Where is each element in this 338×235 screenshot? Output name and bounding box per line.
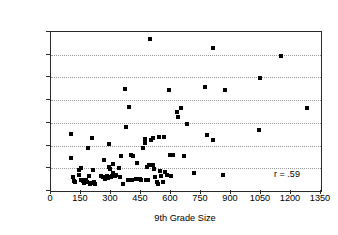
correlation-annotation: r = .59 [274, 169, 300, 179]
y-tick-mark [46, 122, 50, 123]
data-point [167, 88, 171, 92]
data-point [146, 178, 150, 182]
x-tick-mark [110, 190, 111, 194]
data-point [211, 46, 215, 50]
y-tick-mark [46, 145, 50, 146]
data-point [87, 174, 91, 178]
data-point [139, 178, 143, 182]
data-point [156, 182, 160, 186]
data-point [123, 87, 127, 91]
scatter-chart-figure: Mid-Size City 9th Grade Dropout Rate (%)… [0, 0, 338, 235]
data-point [158, 169, 162, 173]
data-point [131, 154, 135, 158]
data-point [223, 88, 227, 92]
data-point [176, 115, 180, 119]
data-point [161, 180, 165, 184]
data-point [93, 182, 97, 186]
data-point [305, 106, 309, 110]
x-tick-mark [230, 190, 231, 194]
data-point [169, 174, 173, 178]
x-tick-mark [290, 190, 291, 194]
x-tick-mark [200, 190, 201, 194]
y-tick-mark [46, 31, 50, 32]
data-point [182, 154, 186, 158]
data-point [143, 141, 147, 145]
x-tick-mark [260, 190, 261, 194]
y-tick-mark [46, 167, 50, 168]
y-tick-mark [46, 99, 50, 100]
data-point [107, 142, 111, 146]
data-point [152, 167, 156, 171]
data-point [258, 76, 262, 80]
data-point [117, 166, 121, 170]
data-point [175, 110, 179, 114]
data-point [124, 125, 128, 129]
data-point [111, 162, 115, 166]
x-tick-mark [80, 190, 81, 194]
data-point [257, 128, 261, 132]
x-tick-mark [140, 190, 141, 194]
data-point [121, 182, 125, 186]
x-tick-mark [170, 190, 171, 194]
data-point [102, 158, 106, 162]
plot-area: r = .59 [50, 31, 322, 192]
data-point [221, 173, 225, 177]
data-point [185, 122, 189, 126]
data-point [79, 166, 83, 170]
x-tick-mark [50, 190, 51, 194]
y-tick-mark [46, 76, 50, 77]
data-point [135, 161, 139, 165]
data-point [192, 171, 196, 175]
data-point [157, 135, 161, 139]
data-point [211, 138, 215, 142]
x-tick-mark [320, 190, 321, 194]
data-point [90, 136, 94, 140]
data-point [165, 173, 169, 177]
gridline [51, 100, 321, 101]
data-point [203, 85, 207, 89]
data-point [159, 174, 163, 178]
data-point [151, 136, 155, 140]
data-point [141, 146, 145, 150]
y-tick-mark [46, 54, 50, 55]
gridline [51, 146, 321, 147]
data-point [69, 132, 73, 136]
data-point [205, 133, 209, 137]
data-point [279, 54, 283, 58]
data-point [179, 106, 183, 110]
data-point [86, 146, 90, 150]
data-point [127, 105, 131, 109]
data-point [171, 153, 175, 157]
data-point [148, 37, 152, 41]
x-tick-label: 1350 [300, 193, 338, 203]
data-point [73, 180, 77, 184]
data-point [153, 175, 157, 179]
data-point [162, 135, 166, 139]
data-point [77, 173, 81, 177]
gridline [51, 77, 321, 78]
x-axis-title: 9th Grade Size [50, 212, 320, 224]
data-point [69, 156, 73, 160]
data-point [91, 168, 95, 172]
data-point [119, 154, 123, 158]
data-point [118, 175, 122, 179]
